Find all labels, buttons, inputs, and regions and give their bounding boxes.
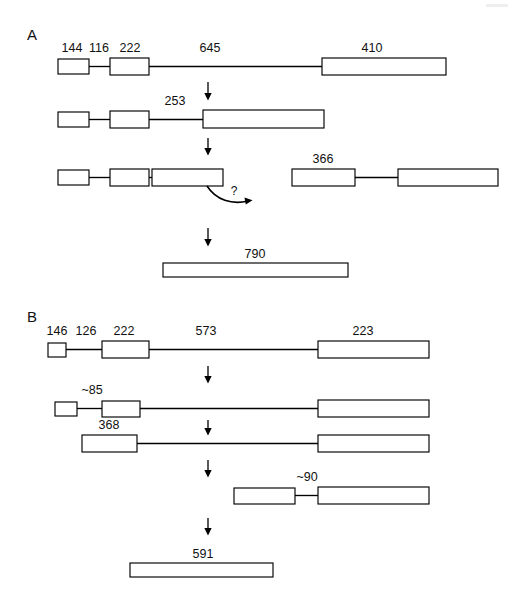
a-r1-exon-144 [58,59,89,74]
a-r1-label-222: 222 [120,41,141,55]
a-r3-exon-left-2 [110,169,149,186]
b-r1-exon-222 [102,341,149,358]
panel-a-row-3: 366 ? [58,152,498,205]
b-r2-exon-1 [55,402,77,416]
panel-a-row-1: 144 116 222 645 410 [58,41,446,75]
b-r4-label-90: ~90 [296,470,317,484]
a-r2-exon-3 [203,110,324,128]
a-r2-exon-1 [58,112,89,127]
panel-b-row-2: ~85 [55,383,429,417]
panel-a-letter: A [27,26,37,43]
a-r3-exon-right-1 [292,169,355,186]
b-step-arrow-1 [204,366,211,384]
a-r3-label-366: 366 [313,152,334,166]
figure-canvas: A 144 116 222 645 410 253 [0,0,523,599]
panel-a-row-4: 790 [163,247,348,277]
a-r3-curved-arrow-head [245,198,253,205]
b-step-arrow-4 [204,518,211,536]
a-r3-exon-left-3 [152,169,223,186]
b-step-arrow-3 [204,460,211,478]
b-r2-exon-3 [318,400,429,417]
b-r1-exon-146 [48,343,66,357]
a-r1-label-116: 116 [89,41,109,55]
a-r3-label-question: ? [231,184,238,198]
a-r1-exon-222 [110,58,149,75]
a-step-arrow-2 [204,138,211,156]
panel-b-row-1: 146 126 222 573 223 [47,324,429,358]
b-r5-exon-591 [130,563,273,577]
a-r4-label-790: 790 [245,247,266,261]
a-r2-label-253: 253 [165,94,186,108]
a-r2-exon-2 [110,111,149,128]
b-r1-label-146: 146 [47,324,68,338]
a-step-arrow-1 [204,82,211,101]
panel-b-row-5: 591 [130,547,273,577]
panel-b-row-3: 368 [82,418,429,452]
b-r1-label-222: 222 [114,324,135,338]
b-r3-exon-2 [318,435,429,452]
b-r2-exon-85 [102,401,140,417]
b-r1-label-573: 573 [196,324,217,338]
a-r1-label-645: 645 [200,41,221,55]
a-r3-exon-right-2 [398,169,498,186]
b-r4-exon-90 [234,488,295,504]
b-r3-label-368: 368 [99,418,120,432]
a-r3-curved-arrow [207,186,248,202]
a-r1-exon-410 [322,58,446,75]
a-r1-label-144: 144 [62,41,83,55]
panel-b-row-4: ~90 [234,470,429,504]
a-r1-label-410: 410 [362,41,383,55]
scan-artifact [486,4,508,7]
a-r4-exon-790 [163,263,348,277]
gene-structure-diagram: A 144 116 222 645 410 253 [0,0,523,599]
b-r2-label-85: ~85 [81,383,102,397]
panel-a-row-2: 253 [58,94,324,128]
b-r4-exon-2 [318,487,429,504]
b-r1-label-223: 223 [353,324,374,338]
b-r5-label-591: 591 [193,547,214,561]
panel-b-letter: B [27,308,37,325]
b-r1-label-126: 126 [76,324,97,338]
b-step-arrow-2 [204,420,211,436]
b-r3-exon-368 [82,435,137,452]
b-r1-exon-223 [318,341,429,358]
a-step-arrow-3 [204,228,211,247]
a-r3-exon-left-1 [58,170,89,185]
